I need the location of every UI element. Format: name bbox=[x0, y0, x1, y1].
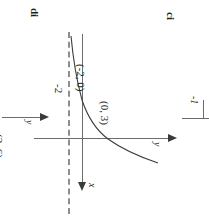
edge-fragment-left-arrowhead bbox=[40, 113, 49, 121]
annotation-point-neg2-0: (-2, 0) bbox=[75, 64, 86, 92]
edge-fragment-right-axis bbox=[182, 118, 209, 119]
annotation-point-0-3: (0, 3) bbox=[99, 101, 110, 125]
edge-fragment-right-label: -1 bbox=[189, 96, 199, 104]
figure-page: di ci y x -2 (-2, 0) (0, 3) (2, 6) y -1 bbox=[0, 0, 209, 221]
annotation-point-2-6: (2, 6) bbox=[0, 134, 4, 158]
edge-fragment-left-label: y bbox=[24, 120, 34, 124]
edge-fragment-right-tick bbox=[203, 100, 204, 118]
edge-fragment-left-axis bbox=[2, 117, 42, 118]
